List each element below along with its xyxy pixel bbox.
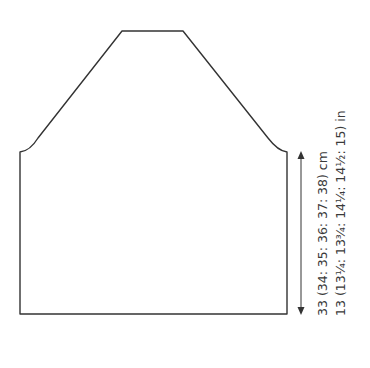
schematic-diagram: 33 (34: 35: 36: 37: 38) cm 13 (13¼: 13¾:… [0,0,370,368]
height-label-cm: 33 (34: 35: 36: 37: 38) cm [315,151,330,316]
height-dimension-arrow [298,151,305,315]
arrow-down-icon [298,307,305,315]
garment-outline [20,31,287,314]
height-label-in: 13 (13¼: 13¾: 14¼: 14½: 15) in [333,110,348,316]
arrow-up-icon [298,151,305,159]
